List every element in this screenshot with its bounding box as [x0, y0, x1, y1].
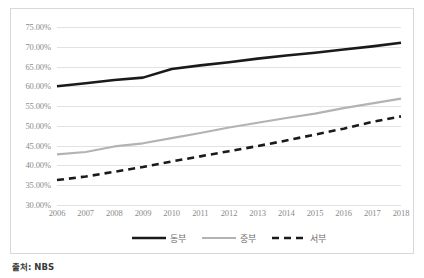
x-axis-tick-label: 2015	[307, 208, 324, 218]
figure-container: 75.00%70.00%65.00%60.00%55.00%50.00%45.0…	[0, 0, 424, 278]
x-axis-tick-label: 2007	[77, 208, 94, 218]
y-axis-tick-label: 60.00%	[25, 81, 51, 91]
x-axis-tick-label: 2016	[335, 208, 352, 218]
legend-item-중부[interactable]: 중부	[202, 232, 256, 245]
x-axis-tick-label: 2018	[393, 208, 410, 218]
legend-swatch-icon	[202, 233, 236, 243]
y-axis-tick-label: 30.00%	[25, 200, 51, 210]
x-axis-tick-labels: 2006200720082009201020112012201320142015…	[57, 208, 401, 224]
y-axis-tick-label: 55.00%	[25, 101, 51, 111]
gridline	[57, 205, 401, 206]
legend-item-서부[interactable]: 서부	[272, 232, 326, 245]
x-axis-tick-label: 2006	[49, 208, 66, 218]
legend-label: 중부	[240, 232, 256, 245]
x-axis-tick-label: 2017	[364, 208, 381, 218]
x-axis-tick-label: 2009	[135, 208, 152, 218]
legend-swatch-icon	[132, 233, 166, 243]
series-line-중부	[57, 99, 401, 155]
y-axis-tick-label: 65.00%	[25, 62, 51, 72]
series-layer	[57, 27, 401, 205]
y-axis-tick-label: 75.00%	[25, 22, 51, 32]
y-axis-tick-label: 50.00%	[25, 121, 51, 131]
y-axis-tick-label: 40.00%	[25, 160, 51, 170]
x-axis-tick-label: 2011	[192, 208, 208, 218]
legend-label: 서부	[310, 232, 326, 245]
legend-label: 동부	[170, 232, 186, 245]
chart-legend: 동부중부서부	[57, 228, 401, 248]
y-axis-tick-label: 35.00%	[25, 180, 51, 190]
y-axis-tick-label: 70.00%	[25, 42, 51, 52]
legend-swatch-icon	[272, 233, 306, 243]
x-axis-tick-label: 2010	[163, 208, 180, 218]
y-axis-tick-labels: 75.00%70.00%65.00%60.00%55.00%50.00%45.0…	[11, 27, 55, 205]
x-axis-tick-label: 2014	[278, 208, 295, 218]
plot-area	[57, 27, 401, 205]
source-caption: 출처: NBS	[12, 260, 54, 272]
chart-frame: 75.00%70.00%65.00%60.00%55.00%50.00%45.0…	[10, 8, 414, 254]
x-axis-tick-label: 2013	[249, 208, 266, 218]
legend-item-동부[interactable]: 동부	[132, 232, 186, 245]
y-axis-tick-label: 45.00%	[25, 141, 51, 151]
series-line-동부	[57, 43, 401, 87]
x-axis-tick-label: 2012	[221, 208, 238, 218]
x-axis-tick-label: 2008	[106, 208, 123, 218]
